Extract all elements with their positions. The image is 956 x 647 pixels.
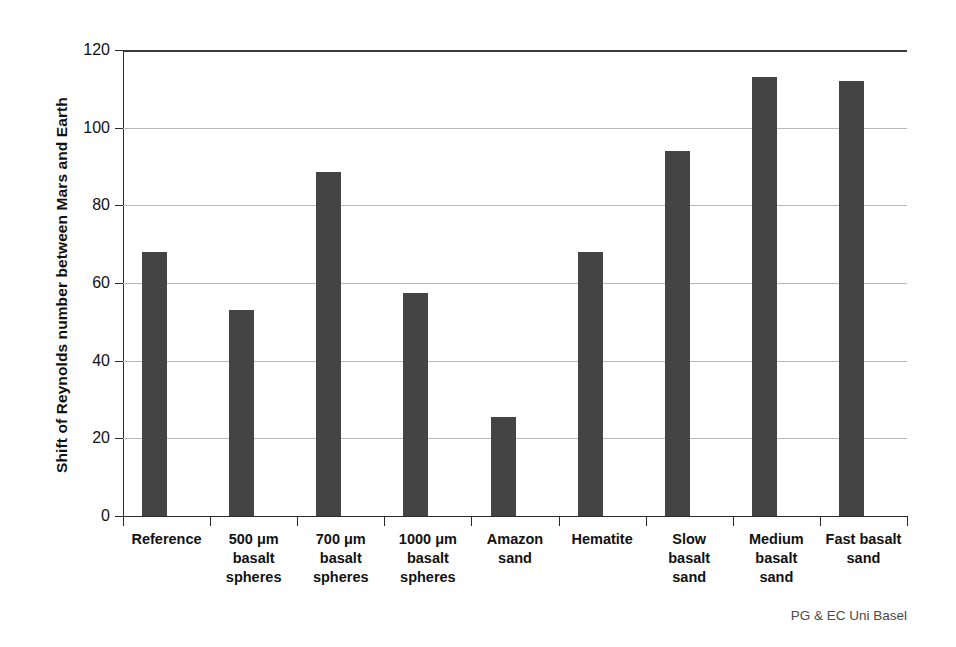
x-tick bbox=[123, 516, 124, 526]
y-tick-label: 40 bbox=[92, 352, 110, 370]
x-axis-label: 1000 μm basalt spheres bbox=[384, 530, 471, 587]
x-axis-label: Amazon sand bbox=[471, 530, 558, 568]
bar bbox=[578, 252, 603, 516]
bar bbox=[229, 310, 254, 516]
y-tick-label: 120 bbox=[83, 41, 110, 59]
x-axis-label: Hematite bbox=[559, 530, 646, 549]
y-tick bbox=[115, 361, 123, 362]
x-tick bbox=[297, 516, 298, 526]
bar-chart-figure: Shift of Reynolds number between Mars an… bbox=[0, 0, 956, 647]
x-axis-label: 700 μm basalt spheres bbox=[297, 530, 384, 587]
bar bbox=[491, 417, 516, 516]
y-tick-label: 100 bbox=[83, 119, 110, 137]
x-tick bbox=[907, 516, 908, 526]
x-axis-label: Slow basalt sand bbox=[646, 530, 733, 587]
y-tick bbox=[115, 50, 123, 51]
y-tick-label: 60 bbox=[92, 274, 110, 292]
y-tick bbox=[115, 516, 123, 517]
x-axis-label: Medium basalt sand bbox=[733, 530, 820, 587]
y-tick-label: 80 bbox=[92, 196, 110, 214]
y-tick bbox=[115, 283, 123, 284]
y-tick-label: 0 bbox=[101, 507, 110, 525]
x-tick bbox=[733, 516, 734, 526]
x-tick bbox=[471, 516, 472, 526]
bar bbox=[403, 293, 428, 516]
bars-group bbox=[123, 50, 907, 516]
x-axis-label: Reference bbox=[123, 530, 210, 549]
x-tick bbox=[559, 516, 560, 526]
x-tick bbox=[210, 516, 211, 526]
bar bbox=[665, 151, 690, 516]
y-tick-label: 20 bbox=[92, 429, 110, 447]
y-tick bbox=[115, 205, 123, 206]
x-axis-label: Fast basalt sand bbox=[820, 530, 907, 568]
x-tick bbox=[384, 516, 385, 526]
y-tick bbox=[115, 128, 123, 129]
bar bbox=[839, 81, 864, 516]
bar bbox=[142, 252, 167, 516]
y-axis-title: Shift of Reynolds number between Mars an… bbox=[53, 55, 71, 515]
x-axis-labels-group: Reference500 μm basalt spheres700 μm bas… bbox=[123, 530, 907, 610]
x-axis-label: 500 μm basalt spheres bbox=[210, 530, 297, 587]
x-tick bbox=[646, 516, 647, 526]
plot-area: 020406080100120 bbox=[123, 50, 907, 516]
bar bbox=[752, 77, 777, 516]
bar bbox=[316, 172, 341, 516]
x-tick bbox=[820, 516, 821, 526]
y-tick bbox=[115, 438, 123, 439]
credit-text: PG & EC Uni Basel bbox=[791, 608, 907, 623]
